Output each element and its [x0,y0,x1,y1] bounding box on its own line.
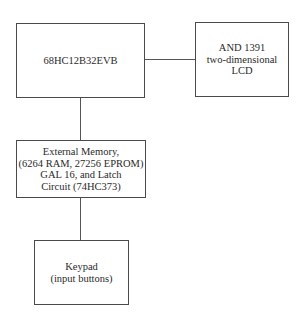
edge-mcu-memory [80,97,81,140]
edge-memory-keypad [80,197,81,240]
node-mcu-label: 68HC12B32EVB [43,55,117,67]
edge-mcu-lcd [145,59,195,60]
node-memory: External Memory, (6264 RAM, 27256 EPROM)… [16,140,146,198]
block-diagram: 68HC12B32EVB AND 1391 two-dimensional LC… [0,0,305,319]
node-mcu: 68HC12B32EVB [16,23,145,98]
node-memory-label: External Memory, (6264 RAM, 27256 EPROM)… [19,146,144,192]
node-lcd: AND 1391 two-dimensional LCD [195,22,289,97]
node-keypad-label: Keypad (input buttons) [50,261,112,284]
node-lcd-label: AND 1391 two-dimensional LCD [207,42,278,77]
node-keypad: Keypad (input buttons) [34,240,129,305]
